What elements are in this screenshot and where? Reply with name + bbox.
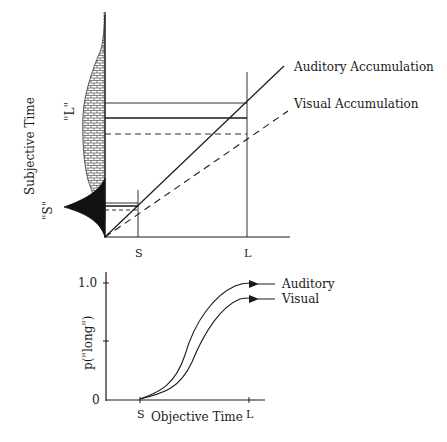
bottom-x-tick-s: S <box>137 408 145 421</box>
bottom-x-tick-l: L <box>246 408 254 421</box>
visual-accumulation-line <box>105 111 288 237</box>
top-x-tick-s: S <box>135 247 143 260</box>
bottom-y-tick-0: 0 <box>92 393 100 407</box>
visual-curve-label: Visual <box>281 292 319 306</box>
objective-time-label: Objective Time <box>151 410 243 424</box>
short-distribution <box>64 178 105 237</box>
auditory-curve-label: Auditory <box>281 277 335 291</box>
bottom-panel: Auditory Visual 1.0 0 S L Objective Time… <box>78 272 335 424</box>
visual-accumulation-label: Visual Accumulation <box>293 97 419 111</box>
auditory-curve <box>140 283 250 399</box>
auditory-accumulation-line <box>105 66 284 237</box>
top-panel: Auditory Accumulation Visual Accumulatio… <box>23 12 434 260</box>
short-distribution-label: "S" <box>41 201 55 220</box>
bottom-y-tick-1: 1.0 <box>78 276 97 290</box>
p-long-label: p("long") <box>81 315 95 370</box>
long-distribution-label: "L" <box>63 102 77 121</box>
visual-curve <box>140 298 250 399</box>
subjective-time-label: Subjective Time <box>23 97 37 195</box>
top-x-tick-l: L <box>244 247 252 260</box>
diagram-canvas: Auditory Accumulation Visual Accumulatio… <box>0 0 447 442</box>
auditory-accumulation-label: Auditory Accumulation <box>293 60 434 74</box>
